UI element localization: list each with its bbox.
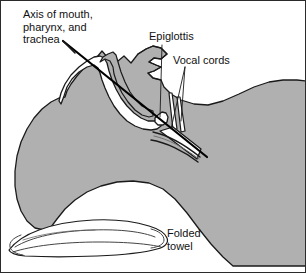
label-vocal-cords: Vocal cords xyxy=(173,54,230,67)
label-axis-line1: Axis of mouth, xyxy=(23,8,93,20)
label-axis-line2: pharynx, and xyxy=(23,21,87,33)
label-axis-of-mouth-pharynx-trachea: Axis of mouth,pharynx, andtrachea xyxy=(23,8,93,46)
label-towel-line1: Folded xyxy=(167,227,201,239)
label-folded-towel: Foldedtowel xyxy=(167,227,201,252)
label-epiglottis: Epiglottis xyxy=(149,30,194,43)
label-towel-line2: towel xyxy=(167,240,193,252)
anatomy-figure: Axis of mouth,pharynx, andtrachea Epiglo… xyxy=(0,0,306,273)
label-axis-line3: trachea xyxy=(23,33,60,45)
